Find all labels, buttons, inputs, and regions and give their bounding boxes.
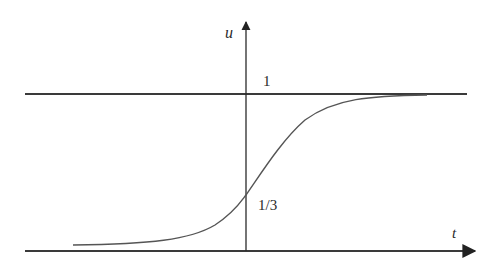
intercept-label: 1/3 [258,197,277,213]
sigmoid-curve [73,95,427,245]
t-axis-label: t [452,225,457,241]
upper-level-label: 1 [263,73,271,89]
u-axis-label: u [225,24,233,41]
sigmoid-diagram: u t 1 1/3 [0,0,500,278]
